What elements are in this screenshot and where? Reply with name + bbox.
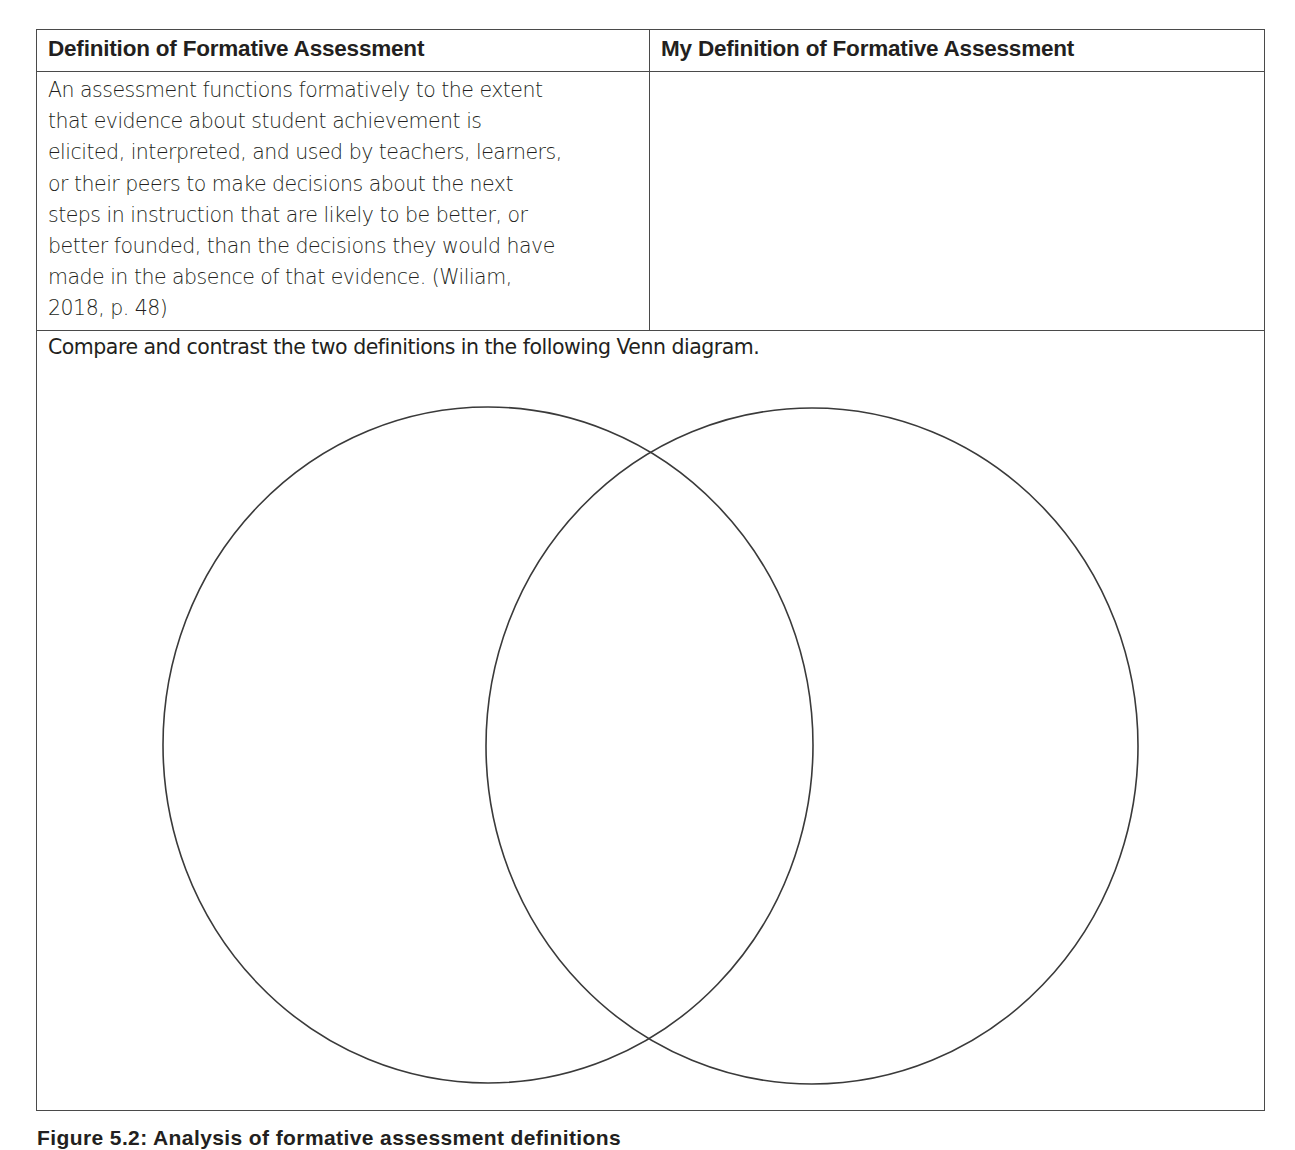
venn-diagram [37, 331, 1263, 1111]
figure-caption: Figure 5.2: Analysis of formative assess… [37, 1126, 621, 1150]
definition-row: An assessment functions formatively to t… [37, 72, 1264, 331]
header-my-definition-title: My Definition of Formative Assessment [661, 36, 1074, 62]
definition-line: or their peers to make decisions about t… [48, 169, 648, 200]
definition-line: An assessment functions formatively to t… [48, 75, 648, 106]
definition-line: made in the absence of that evidence. (W… [48, 262, 648, 293]
header-cell-definition: Definition of Formative Assessment [37, 30, 650, 71]
definition-line: that evidence about student achievement … [48, 106, 648, 137]
definition-cell: An assessment functions formatively to t… [37, 72, 650, 330]
definition-line: 2018, p. 48) [48, 293, 648, 324]
wiliam-definition-text: An assessment functions formatively to t… [48, 75, 648, 325]
definition-line: better founded, than the decisions they … [48, 231, 648, 262]
formative-assessment-worksheet: Definition of Formative Assessment My De… [36, 29, 1265, 1111]
venn-diagram-row: Compare and contrast the two definitions… [37, 331, 1264, 1110]
definition-line: elicited, interpreted, and used by teach… [48, 137, 648, 168]
my-definition-cell[interactable] [650, 72, 1264, 330]
header-cell-my-definition: My Definition of Formative Assessment [650, 30, 1264, 71]
table-header-row: Definition of Formative Assessment My De… [37, 30, 1264, 72]
venn-right-circle[interactable] [486, 408, 1138, 1084]
definition-line: steps in instruction that are likely to … [48, 200, 648, 231]
venn-left-circle[interactable] [163, 407, 813, 1083]
header-definition-title: Definition of Formative Assessment [48, 36, 424, 62]
